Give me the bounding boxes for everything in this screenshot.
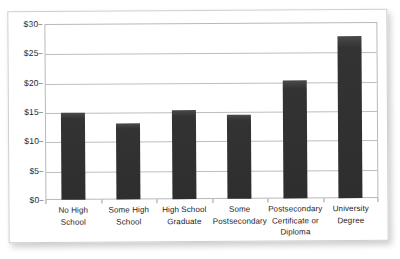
y-axis-tick-mark: [39, 112, 43, 113]
x-axis-category-label-line: Postsecondary: [212, 215, 268, 227]
x-axis-tick-mark: [156, 199, 157, 203]
bar: [116, 123, 141, 199]
y-axis-tick-label: $10: [24, 136, 39, 146]
x-axis-category-label: High SchoolGraduate: [156, 204, 212, 227]
x-axis-tick-mark: [45, 200, 46, 204]
x-axis: No High SchoolSome HighSchoolHigh School…: [45, 203, 378, 245]
y-axis-tick-label: $20: [24, 78, 39, 88]
y-axis-tick-label: $25: [24, 48, 39, 58]
x-axis-category-label-line: No High School: [45, 205, 101, 228]
x-axis-tick-mark: [101, 200, 102, 204]
bar: [227, 114, 252, 199]
x-axis-category-label-line: Certificate or: [268, 215, 324, 227]
x-axis-category-label: Some HighSchool: [101, 204, 157, 227]
x-axis-tick-mark: [212, 199, 213, 203]
x-axis-category-label-line: Graduate: [157, 215, 213, 227]
x-axis-category-label-line: Some: [212, 204, 268, 216]
y-axis-tick-label: $0: [30, 195, 40, 205]
bar: [60, 112, 85, 200]
y-axis-tick-mark: [39, 53, 43, 54]
y-axis-tick-mark: [39, 83, 43, 84]
x-axis-category-label: UniversityDegree: [323, 203, 379, 226]
x-axis-category-label-line: Some High: [101, 204, 157, 216]
x-axis-category-label: No High School: [45, 205, 101, 228]
y-axis-tick-mark: [38, 24, 42, 25]
x-axis-category-label: PostsecondaryCertificate orDiploma: [267, 203, 323, 238]
x-axis-category-label-line: Diploma: [268, 226, 324, 238]
x-axis-category-label-line: High School: [156, 204, 212, 216]
bar-chart-figure: $0$5$10$15$20$25$30 No High SchoolSome H…: [8, 10, 389, 244]
x-axis-category-label-line: Postsecondary: [267, 203, 323, 215]
x-axis-tick-mark: [267, 199, 268, 203]
bars-layer: [44, 22, 378, 200]
y-axis: $0$5$10$15$20$25$30: [8, 24, 43, 200]
y-axis-tick-mark: [39, 200, 43, 201]
y-axis-tick-mark: [39, 141, 43, 142]
x-axis-category-label: SomePostsecondary: [212, 204, 268, 227]
x-axis-tick-mark: [377, 198, 378, 202]
bar: [171, 110, 196, 199]
scanned-page-card: $0$5$10$15$20$25$30 No High SchoolSome H…: [7, 9, 388, 243]
y-axis-tick-label: $15: [24, 107, 39, 117]
y-axis-tick-label: $30: [24, 19, 39, 29]
x-axis-category-label-line: University: [323, 203, 379, 215]
y-axis-tick-mark: [39, 171, 43, 172]
bar: [337, 36, 362, 198]
y-axis-tick-label: $5: [29, 166, 39, 176]
x-axis-category-label-line: Degree: [323, 214, 379, 226]
bar: [282, 80, 307, 199]
x-axis-tick-mark: [323, 198, 324, 202]
x-axis-category-label-line: School: [101, 216, 157, 228]
